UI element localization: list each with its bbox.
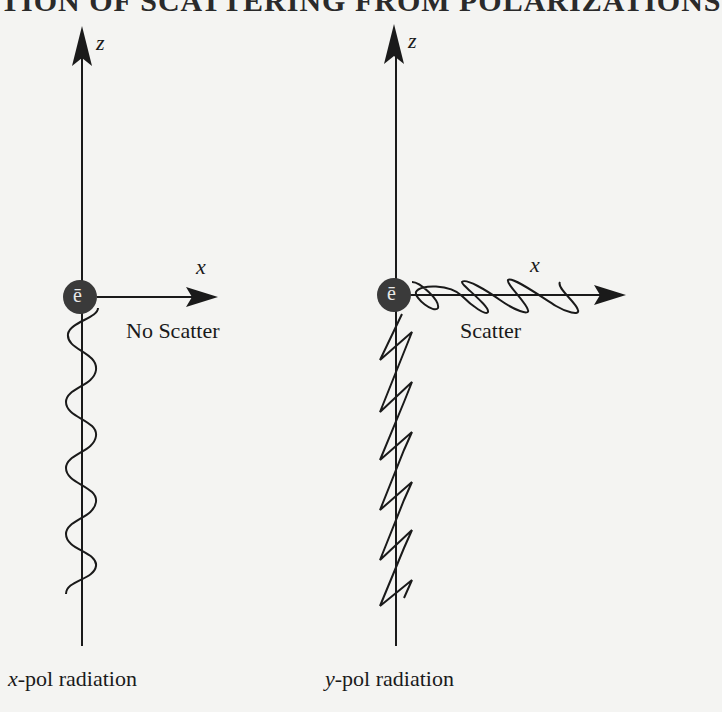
left-caption-var: x xyxy=(8,666,18,691)
right-x-axis-label: x xyxy=(530,252,540,278)
right-scattered-wave xyxy=(412,279,578,312)
right-caption-text: -pol radiation xyxy=(335,666,454,691)
left-incident-wave xyxy=(66,308,98,594)
left-x-axis-label: x xyxy=(196,254,206,280)
left-outcome-label: No Scatter xyxy=(126,318,219,344)
right-caption: y-pol radiation xyxy=(325,666,454,692)
right-z-axis-label: z xyxy=(408,28,417,54)
right-outcome-label: Scatter xyxy=(460,318,521,344)
right-electron-label: ē xyxy=(387,282,396,305)
left-electron-label: ē xyxy=(73,284,82,307)
left-caption: x-pol radiation xyxy=(8,666,137,692)
right-z-arrowhead-icon xyxy=(384,24,404,64)
right-caption-var: y xyxy=(325,666,335,691)
left-caption-text: -pol radiation xyxy=(18,666,137,691)
left-z-axis-label: z xyxy=(96,30,105,56)
